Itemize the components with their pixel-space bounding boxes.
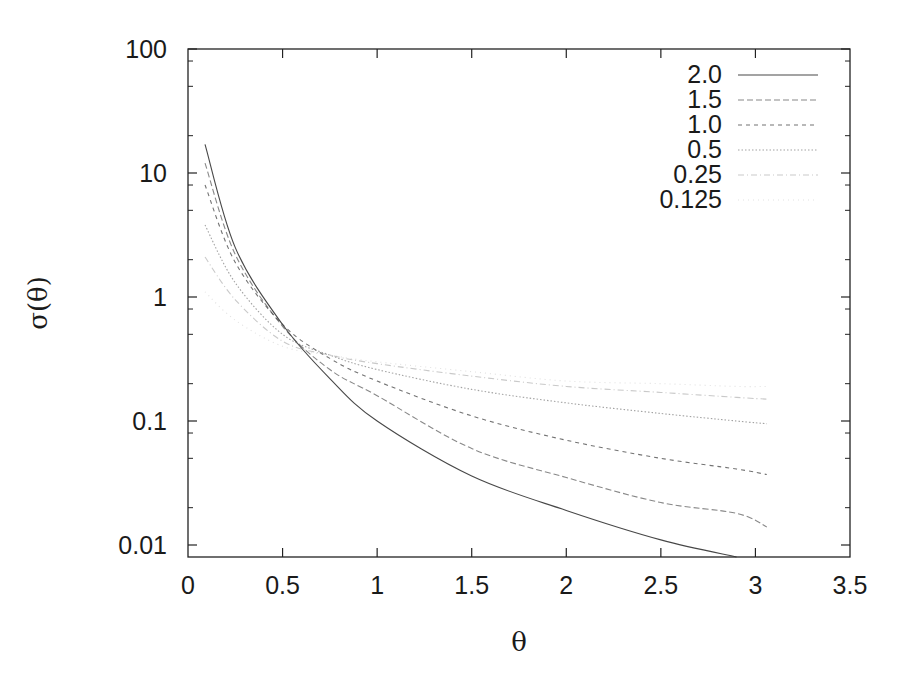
legend-label: 0.125 (659, 185, 722, 213)
series-line-1.5 (205, 163, 767, 527)
legend-label: 2.0 (687, 60, 722, 88)
y-tick-label: 0.1 (132, 407, 167, 435)
x-axis-ticks: 00.511.522.533.5 (181, 49, 867, 599)
legend-label: 1.5 (687, 85, 722, 113)
y-tick-label: 1 (153, 283, 167, 311)
legend-label: 0.5 (687, 135, 722, 163)
y-tick-label: 0.01 (118, 531, 167, 559)
y-axis-ticks: 1001010.10.01 (118, 35, 850, 559)
y-tick-label: 10 (139, 159, 167, 187)
y-tick-label: 100 (125, 35, 167, 63)
chart: 00.511.522.533.5 1001010.10.01 2.01.51.0… (0, 0, 908, 673)
legend-label: 0.25 (673, 160, 722, 188)
x-tick-label: 0.5 (265, 571, 300, 599)
x-tick-label: 1.5 (454, 571, 489, 599)
x-tick-label: 3.5 (833, 571, 868, 599)
x-tick-label: 2 (559, 571, 573, 599)
plot-frame (188, 49, 850, 557)
x-tick-label: 0 (181, 571, 195, 599)
legend-label: 1.0 (687, 110, 722, 138)
legend: 2.01.51.00.50.250.125 (659, 60, 818, 213)
series-line-2.0 (205, 144, 736, 557)
series-line-1.0 (205, 185, 767, 475)
y-axis-label: σ(θ) (23, 276, 53, 330)
x-tick-label: 2.5 (643, 571, 678, 599)
series-line-0.25 (205, 257, 767, 399)
x-tick-label: 3 (748, 571, 762, 599)
x-axis-label: θ (511, 627, 527, 657)
x-tick-label: 1 (370, 571, 384, 599)
